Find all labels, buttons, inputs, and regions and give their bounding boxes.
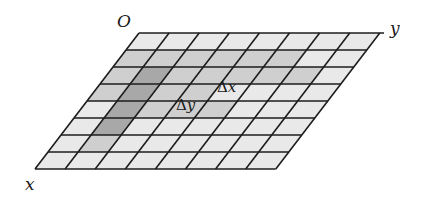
y-axis-label: y	[390, 20, 400, 37]
origin-label: O	[117, 13, 131, 30]
delta-x-label: Δx	[217, 80, 236, 95]
delta-y-label: Δy	[176, 98, 195, 113]
oblique-grid	[0, 0, 421, 200]
grid-diagram: O x y Δx Δy	[0, 0, 421, 200]
x-axis-label: x	[25, 176, 35, 193]
